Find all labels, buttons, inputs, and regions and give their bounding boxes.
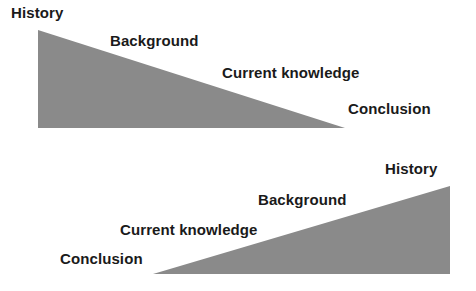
- label-current-knowledge-ascending: Current knowledge: [120, 222, 258, 238]
- label-background-ascending: Background: [258, 192, 347, 208]
- label-history-descending: History: [11, 5, 63, 21]
- descending-wedge-panel: History Background Current knowledge Con…: [0, 0, 476, 145]
- wedge-diagram-figure: History Background Current knowledge Con…: [0, 0, 476, 291]
- label-conclusion-ascending: Conclusion: [60, 251, 143, 267]
- label-history-ascending: History: [385, 161, 437, 177]
- label-conclusion-descending: Conclusion: [348, 101, 431, 117]
- label-background-descending: Background: [110, 33, 199, 49]
- ascending-wedge-panel: History Background Current knowledge Con…: [0, 145, 476, 291]
- label-current-knowledge-descending: Current knowledge: [222, 65, 360, 81]
